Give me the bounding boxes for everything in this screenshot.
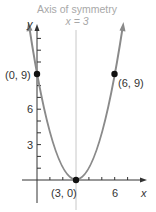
x-tick-label-6: 6 [112, 187, 118, 199]
axis-of-symmetry-title: Axis of symmetry [37, 3, 118, 15]
parabola-graph: Axis of symmetry x = 3 y x 6 3 6 (0, 9) … [0, 0, 156, 212]
y-tick-label-3: 3 [27, 139, 33, 151]
point-3-0-vertex [73, 177, 79, 183]
point-6-9 [111, 71, 117, 77]
curve-right-arrow-icon [120, 22, 126, 32]
y-tick-label-6: 6 [27, 103, 33, 115]
y-axis-label: y [26, 18, 34, 30]
point-label-3-0: (3, 0) [51, 187, 77, 199]
x-axis-arrow-icon [140, 178, 147, 183]
point-label-6-9: (6, 9) [118, 77, 144, 89]
point-label-0-9: (0, 9) [5, 69, 31, 81]
axis-of-symmetry-equation: x = 3 [64, 15, 88, 27]
y-axis-arrow-icon [35, 24, 40, 31]
x-axis-label: x [140, 187, 147, 199]
point-0-9 [34, 71, 40, 77]
y-ticks [37, 38, 41, 168]
